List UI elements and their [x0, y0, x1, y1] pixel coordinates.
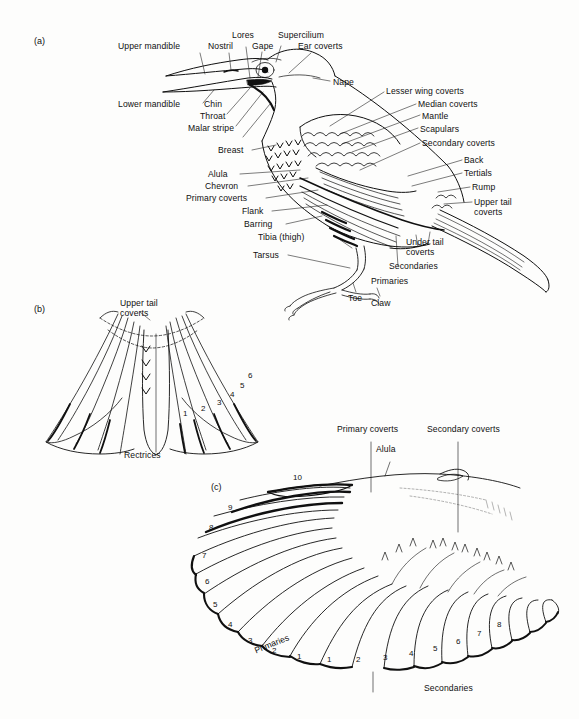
label-primary-coverts: Primary coverts	[186, 193, 247, 203]
label-throat: Throat	[200, 111, 225, 121]
diagram-artwork	[0, 0, 579, 719]
label-breast: Breast	[218, 145, 243, 155]
label-lesser-wing-coverts: Lesser wing coverts	[386, 86, 464, 96]
secondary-number-5: 5	[433, 644, 437, 653]
label-upper-tail-coverts-b: Upper tail coverts	[120, 298, 168, 318]
label-nape: Nape	[333, 77, 354, 87]
label-lores: Lores	[232, 30, 254, 40]
label-chevron: Chevron	[205, 181, 238, 191]
label-alula-c: Alula	[376, 444, 396, 454]
primary-number-8: 8	[209, 523, 213, 532]
label-tibia-thigh: Tibia (thigh)	[258, 232, 304, 242]
label-secondaries-c: Secondaries	[424, 683, 473, 693]
primary-number-9: 9	[228, 503, 232, 512]
label-tarsus: Tarsus	[253, 250, 279, 260]
label-upper-tail-coverts-a: Upper tail coverts	[474, 197, 524, 217]
secondary-number-2: 2	[356, 655, 360, 664]
label-flank: Flank	[242, 206, 264, 216]
primary-number-5: 5	[213, 600, 217, 609]
rectrix-number-3: 3	[217, 398, 221, 407]
label-upper-mandible: Upper mandible	[118, 41, 180, 51]
secondary-number-7: 7	[477, 629, 481, 638]
secondary-number-6: 6	[456, 637, 460, 646]
label-alula: Alula	[208, 169, 228, 179]
label-nostril: Nostril	[208, 41, 233, 51]
primary-number-7: 7	[202, 551, 206, 560]
secondary-number-1: 1	[327, 655, 331, 664]
label-tertials: Tertials	[464, 168, 492, 178]
label-secondaries-a: Secondaries	[389, 261, 438, 271]
rectrix-number-4: 4	[230, 390, 234, 399]
panel-b-id: (b)	[34, 304, 45, 314]
rectrix-number-6: 6	[248, 371, 252, 380]
rectrix-number-1: 1	[183, 409, 187, 418]
primary-number-10: 10	[293, 473, 302, 482]
label-ear-coverts: Ear coverts	[298, 41, 343, 51]
rectrix-number-5: 5	[240, 381, 244, 390]
label-supercilium: Supercilium	[278, 30, 324, 40]
label-scapulars: Scapulars	[420, 124, 459, 134]
primary-number-2: 2	[272, 646, 276, 655]
label-malar-stripe: Malar stripe	[188, 123, 234, 133]
label-rump: Rump	[472, 182, 495, 192]
label-secondary-coverts-c: Secondary coverts	[427, 424, 500, 434]
label-rectrices: Rectrices	[124, 450, 161, 460]
rectrix-number-2: 2	[201, 404, 205, 413]
panel-c-id: (c)	[211, 482, 222, 492]
secondary-number-3: 3	[383, 653, 387, 662]
label-gape: Gape	[252, 41, 273, 51]
label-secondary-coverts: Secondary coverts	[422, 138, 495, 148]
secondary-number-8: 8	[497, 620, 501, 629]
panel-a-id: (a)	[34, 36, 45, 46]
figure-canvas: (a) Upper mandible Nostril Lores Gape Su…	[0, 0, 579, 719]
label-claw: Claw	[371, 298, 391, 308]
label-lower-mandible: Lower mandible	[118, 99, 180, 109]
label-mantle: Mantle	[422, 111, 448, 121]
secondary-number-4: 4	[409, 649, 413, 658]
label-toe: Toe	[348, 293, 362, 303]
primary-number-3: 3	[248, 636, 252, 645]
primary-number-4: 4	[228, 620, 232, 629]
primary-number-1: 1	[297, 652, 301, 661]
label-under-tail-coverts: Under tail coverts	[406, 237, 456, 257]
primary-number-6: 6	[205, 577, 209, 586]
label-barring: Barring	[244, 219, 272, 229]
label-back: Back	[464, 155, 484, 165]
label-chin: Chin	[204, 99, 222, 109]
label-primaries-a: Primaries	[371, 276, 408, 286]
label-median-coverts: Median coverts	[418, 99, 478, 109]
label-primary-coverts-c: Primary coverts	[337, 424, 398, 434]
